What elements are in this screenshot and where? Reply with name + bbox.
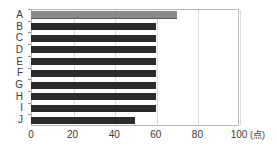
y-axis-label-G: G: [15, 80, 23, 90]
x-axis-tick-label-0: 0: [28, 129, 34, 141]
x-axis-tick-label-100: 100: [231, 129, 248, 141]
y-axis-label-C: C: [16, 33, 23, 43]
y-axis-tick-A: [28, 9, 31, 10]
bar-D: [31, 46, 156, 53]
y-axis-labels: ABCDEFGHIJ: [0, 9, 28, 126]
x-axis-tick-label-80: 80: [192, 129, 203, 141]
y-axis-tick-C: [28, 32, 31, 33]
bar-chart: ABCDEFGHIJ 020406080100 (点): [0, 0, 277, 152]
x-axis-labels: 020406080100: [0, 129, 277, 143]
y-axis-label-I: I: [20, 103, 23, 113]
y-axis-label-B: B: [16, 22, 23, 32]
bar-H: [31, 93, 156, 100]
x-axis-tick-label-60: 60: [150, 129, 161, 141]
bar-I: [31, 105, 156, 112]
bar-E: [31, 58, 156, 65]
y-axis-tick-J: [28, 114, 31, 115]
y-axis-label-F: F: [17, 68, 23, 78]
y-axis-label-E: E: [16, 57, 23, 67]
x-axis-unit-label: (点): [250, 129, 265, 141]
y-axis-tick-B: [28, 21, 31, 22]
bar-G: [31, 82, 156, 89]
y-axis-label-J: J: [18, 115, 23, 125]
y-axis-label-A: A: [16, 10, 23, 20]
x-axis-tick-label-40: 40: [109, 129, 120, 141]
bar-C: [31, 35, 156, 42]
y-axis-tick-F: [28, 68, 31, 69]
x-axis-tick-label-20: 20: [67, 129, 78, 141]
bar-A: [31, 11, 177, 19]
y-axis-tick-G: [28, 79, 31, 80]
y-axis-label-D: D: [16, 45, 23, 55]
bar-J: [31, 117, 135, 124]
bar-B: [31, 23, 156, 30]
y-axis-label-H: H: [16, 92, 23, 102]
bar-F: [31, 70, 156, 77]
y-axis-tick-H: [28, 91, 31, 92]
y-axis-tick-D: [28, 44, 31, 45]
y-axis-tick-I: [28, 103, 31, 104]
y-axis-tick-E: [28, 56, 31, 57]
